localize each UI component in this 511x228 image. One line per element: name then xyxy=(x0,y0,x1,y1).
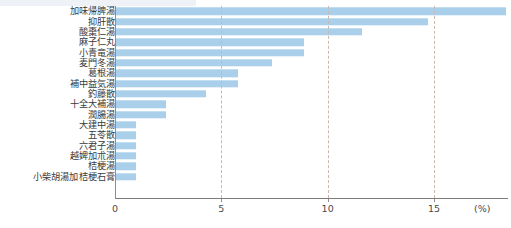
category-label: 小柴胡湯加桔梗石膏 xyxy=(33,172,115,182)
bar-track xyxy=(115,28,362,35)
x-tick xyxy=(328,199,329,202)
bar xyxy=(115,111,166,118)
y-axis-line xyxy=(115,6,116,198)
bar-track xyxy=(115,111,166,118)
bar xyxy=(115,80,238,87)
gridline xyxy=(328,6,329,198)
bar-track xyxy=(115,70,238,77)
gridline xyxy=(221,6,222,198)
bar xyxy=(115,90,206,97)
bar xyxy=(115,152,136,159)
bar xyxy=(115,70,238,77)
bar xyxy=(115,142,136,149)
bar-track xyxy=(115,90,206,97)
bar-track xyxy=(115,80,238,87)
bar-track xyxy=(115,49,304,56)
x-axis-unit-label: (%) xyxy=(474,203,490,214)
x-tick-label: 5 xyxy=(218,203,224,214)
x-tick xyxy=(434,199,435,202)
bar-track xyxy=(115,132,136,139)
plot-area: 加味帰脾湯抑肝散酸棗仁湯麻子仁丸小青竜湯麦門冬湯葛根湯補中益気湯釣藤散十全大補湯… xyxy=(0,6,511,228)
bar-track xyxy=(115,7,506,14)
bar-track xyxy=(115,101,166,108)
gridline xyxy=(434,6,435,198)
bar xyxy=(115,39,304,46)
bar-track xyxy=(115,152,136,159)
bar xyxy=(115,163,136,170)
x-tick-label: 10 xyxy=(322,203,334,214)
x-axis-line xyxy=(115,198,508,199)
bar-track xyxy=(115,163,136,170)
bar xyxy=(115,173,136,180)
bar xyxy=(115,28,362,35)
bar-track xyxy=(115,142,136,149)
bar xyxy=(115,132,136,139)
bar-track xyxy=(115,39,304,46)
horizontal-bar-chart: 加味帰脾湯抑肝散酸棗仁湯麻子仁丸小青竜湯麦門冬湯葛根湯補中益気湯釣藤散十全大補湯… xyxy=(0,0,511,228)
bar-track xyxy=(115,59,272,66)
x-tick xyxy=(221,199,222,202)
bar-track xyxy=(115,121,136,128)
bar xyxy=(115,18,428,25)
bar-track xyxy=(115,173,136,180)
x-tick-label: 15 xyxy=(428,203,440,214)
bar xyxy=(115,49,304,56)
bar xyxy=(115,121,136,128)
bar-track xyxy=(115,18,428,25)
bar xyxy=(115,101,166,108)
x-tick-label: 0 xyxy=(112,203,118,214)
bar xyxy=(115,7,506,14)
bar xyxy=(115,59,272,66)
